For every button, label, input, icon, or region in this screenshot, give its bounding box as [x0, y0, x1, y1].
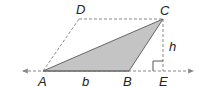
label-D: D [76, 2, 85, 17]
label-E: E [159, 74, 168, 87]
right-angle-marker [153, 61, 163, 71]
label-B: B [123, 74, 132, 87]
label-C: C [160, 3, 170, 18]
triangle-area-diagram: D C h A b B E [0, 0, 203, 87]
label-h: h [169, 39, 176, 54]
label-A: A [37, 74, 47, 87]
label-b: b [82, 74, 89, 87]
